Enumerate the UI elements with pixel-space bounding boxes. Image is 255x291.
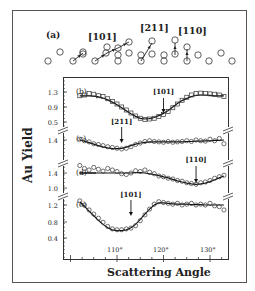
panel-c: (c)1.4[211] <box>48 117 226 151</box>
direction-arrow-icon <box>95 53 107 61</box>
svg-text:1.2: 1.2 <box>48 202 58 210</box>
atom-icon <box>218 50 224 56</box>
y-axis-label: Au Yield <box>21 127 35 184</box>
atom-icon <box>149 51 155 57</box>
svg-text:[101]: [101] <box>153 87 174 96</box>
svg-text:0.9: 0.9 <box>48 104 58 112</box>
panel-a-label: (a) <box>46 30 60 40</box>
svg-text:0.8: 0.8 <box>48 219 58 227</box>
direction-label-110: [110] <box>178 25 207 36</box>
svg-text:1.0: 1.0 <box>48 185 58 193</box>
panel-b: (b)1.30.90.5[101] <box>48 87 226 127</box>
svg-text:1.3: 1.3 <box>48 89 58 97</box>
x-tick-110: 110° <box>107 246 123 254</box>
figure: (a) [101] [211] [110] (b)1.30.90.5[101](… <box>0 0 255 291</box>
atom-icon <box>115 58 121 64</box>
atom-icon <box>57 49 63 55</box>
svg-text:1.4: 1.4 <box>48 137 58 145</box>
atom-icon <box>172 37 178 43</box>
atom-icon <box>104 44 110 50</box>
svg-text:[211]: [211] <box>111 117 132 126</box>
svg-text:1.4: 1.4 <box>48 170 58 178</box>
atom-lattice-diagram <box>45 37 235 64</box>
atom-icon <box>229 58 235 64</box>
panel-e: (e)1.20.80.4[101] <box>48 190 226 243</box>
x-axis-label: Scattering Angle <box>107 266 211 279</box>
panel-d: (d)1.41.0[110] <box>48 155 226 193</box>
atom-icon <box>115 52 121 58</box>
direction-label-211: [211] <box>140 22 169 33</box>
atom-icon <box>206 58 212 64</box>
x-tick-120: 120° <box>153 246 169 254</box>
svg-text:0.5: 0.5 <box>48 119 58 127</box>
atom-icon <box>161 52 167 58</box>
svg-text:[110]: [110] <box>185 155 206 164</box>
svg-text:0.4: 0.4 <box>48 235 58 243</box>
svg-text:[101]: [101] <box>120 190 141 199</box>
atom-icon <box>126 50 132 56</box>
direction-label-101: [101] <box>88 31 117 42</box>
atom-icon <box>161 58 167 64</box>
plot-area: (b)1.30.90.5[101](c)1.4[211](d)1.41.0[11… <box>48 78 233 263</box>
x-tick-130: 130° <box>200 246 216 254</box>
atom-icon <box>195 52 201 58</box>
atom-icon <box>45 58 51 64</box>
